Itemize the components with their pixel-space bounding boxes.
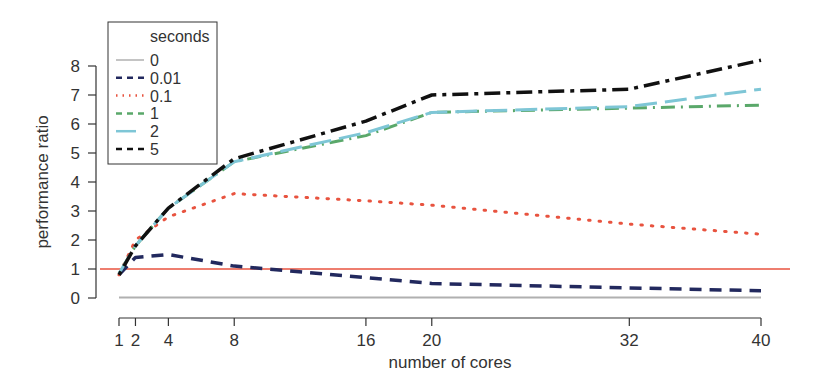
y-tick-label: 5 [71, 144, 80, 163]
legend-label: 5 [150, 141, 159, 158]
x-tick-label: 4 [164, 331, 173, 350]
legend-label: 1 [150, 105, 159, 122]
legend-label: 0.01 [150, 70, 181, 87]
x-tick-label: 16 [356, 331, 375, 350]
y-tick-label: 4 [71, 173, 80, 192]
x-tick-label: 8 [229, 331, 238, 350]
x-tick-label: 32 [620, 331, 639, 350]
y-tick-label: 0 [71, 289, 80, 308]
performance-chart: 012345678 124816203240 performance ratio… [0, 0, 821, 385]
y-tick-label: 3 [71, 202, 80, 221]
x-tick-label: 1 [114, 331, 123, 350]
legend: seconds 00.010.1125 [108, 22, 217, 164]
x-axis-title: number of cores [389, 353, 512, 372]
y-tick-label: 6 [71, 115, 80, 134]
x-tick-label: 40 [752, 331, 771, 350]
y-tick-label: 8 [71, 57, 80, 76]
series-line-0-01 [119, 255, 761, 291]
y-tick-label: 2 [71, 231, 80, 250]
legend-label: 0.1 [150, 88, 172, 105]
legend-title: seconds [150, 28, 210, 45]
y-tick-label: 1 [71, 260, 80, 279]
y-tick-label: 7 [71, 86, 80, 105]
y-axis-title: performance ratio [33, 115, 52, 248]
x-tick-label: 20 [422, 331, 441, 350]
legend-label: 0 [150, 52, 159, 69]
x-tick-label: 2 [131, 331, 140, 350]
legend-label: 2 [150, 123, 159, 140]
